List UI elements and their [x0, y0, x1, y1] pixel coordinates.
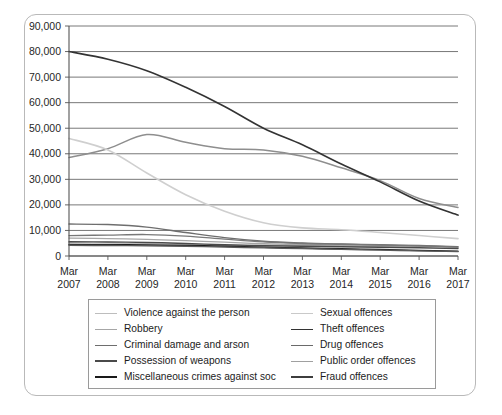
legend-label: Robbery [124, 321, 163, 337]
x-tick-label-month: Mar [254, 265, 273, 277]
legend-item[interactable]: Possession of weapons [95, 353, 291, 369]
legend-label: Sexual offences [320, 305, 392, 321]
x-tick-label-month: Mar [99, 265, 118, 277]
x-tick-label-month: Mar [138, 265, 157, 277]
x-tick-label-year: 2011 [213, 278, 236, 290]
x-tick-label-month: Mar [332, 265, 351, 277]
legend-label: Public order offences [320, 353, 416, 369]
legend-label: Fraud offences [320, 369, 388, 385]
legend-label: Drug offences [320, 337, 383, 353]
x-tick-label-month: Mar [293, 265, 312, 277]
x-tick-label-year: 2008 [96, 278, 120, 290]
legend-line-swatch [291, 361, 313, 362]
x-axis-labels: Mar2007Mar2008Mar2009Mar2010Mar2011Mar20… [57, 265, 470, 290]
y-tick-label: 70,000 [29, 71, 61, 83]
y-tick-label: 30,000 [29, 173, 61, 185]
x-axis-ticks [69, 256, 458, 260]
y-axis-labels: 010,00020,00030,00040,00050,00060,00070,… [29, 20, 61, 262]
legend-line-swatch [291, 376, 313, 378]
x-tick-label-month: Mar [216, 265, 235, 277]
y-tick-label: 80,000 [29, 45, 61, 57]
legend-line-swatch [291, 313, 313, 314]
series-line [69, 134, 458, 207]
x-tick-label-month: Mar [449, 265, 468, 277]
legend-line-swatch [95, 329, 117, 330]
legend-line-swatch [291, 345, 313, 346]
y-tick-label: 60,000 [29, 96, 61, 108]
legend-item[interactable]: Miscellaneous crimes against soc [95, 369, 291, 385]
chart-legend: Violence against the personSexual offenc… [88, 299, 436, 389]
x-tick-label-year: 2010 [174, 278, 198, 290]
legend-label: Possession of weapons [124, 353, 231, 369]
x-tick-label-year: 2016 [407, 278, 431, 290]
x-tick-label-year: 2012 [252, 278, 276, 290]
series-lines [69, 52, 458, 252]
legend-item[interactable]: Violence against the person [95, 305, 291, 321]
legend-line-swatch [95, 376, 117, 378]
legend-label: Theft offences [320, 321, 384, 337]
x-tick-label-month: Mar [371, 265, 390, 277]
legend-item[interactable]: Public order offences [291, 353, 443, 369]
legend-item[interactable]: Sexual offences [291, 305, 443, 321]
legend-item[interactable]: Criminal damage and arson [95, 337, 291, 353]
legend-label: Criminal damage and arson [124, 337, 249, 353]
y-tick-label: 20,000 [29, 198, 61, 210]
legend-item[interactable]: Theft offences [291, 321, 443, 337]
legend-line-swatch [291, 329, 313, 330]
y-tick-label: 0 [55, 250, 61, 262]
y-tick-label: 10,000 [29, 224, 61, 236]
legend-item[interactable]: Robbery [95, 321, 291, 337]
x-tick-label-year: 2015 [369, 278, 393, 290]
x-tick-label-year: 2013 [291, 278, 315, 290]
x-tick-label-year: 2009 [135, 278, 159, 290]
legend-label: Violence against the person [124, 305, 250, 321]
x-tick-label-year: 2007 [57, 278, 81, 290]
x-tick-label-month: Mar [60, 265, 79, 277]
x-tick-label-month: Mar [410, 265, 429, 277]
x-tick-label-month: Mar [177, 265, 196, 277]
y-tick-label: 50,000 [29, 122, 61, 134]
legend-line-swatch [95, 313, 117, 314]
legend-label: Miscellaneous crimes against soc [124, 369, 276, 385]
x-tick-label-year: 2017 [446, 278, 470, 290]
gridlines [65, 26, 458, 256]
y-tick-label: 90,000 [29, 20, 61, 32]
legend-line-swatch [95, 360, 117, 362]
x-tick-label-year: 2014 [330, 278, 354, 290]
y-tick-label: 40,000 [29, 147, 61, 159]
legend-item[interactable]: Drug offences [291, 337, 443, 353]
legend-item[interactable]: Fraud offences [291, 369, 443, 385]
legend-line-swatch [95, 345, 117, 346]
